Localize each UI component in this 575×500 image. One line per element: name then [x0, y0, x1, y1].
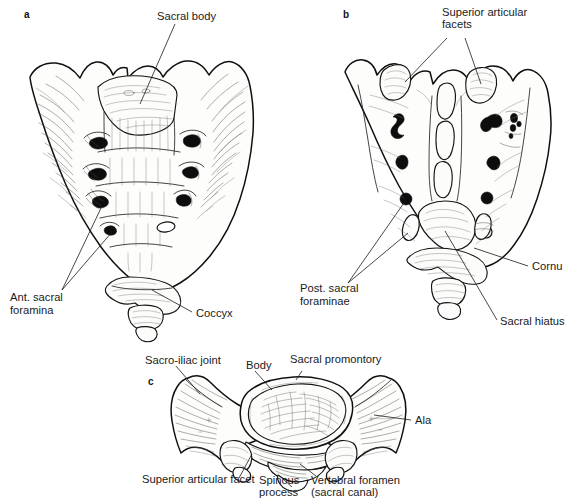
- panel-b-post-foramen-right-3: [481, 192, 493, 204]
- label-sacral-promontory: Sacral promontory: [290, 353, 382, 365]
- figure-root: a Sacral body Ant. sacral foramina Coccy…: [0, 0, 575, 500]
- panel-b-post-foramen-left-2: [396, 155, 408, 169]
- label-ant-sacral-foramina-line2: foramina: [10, 304, 54, 316]
- panel-a-foramen-right-3: [176, 195, 191, 207]
- panel-a-foramen-right-1: [183, 135, 200, 147]
- panel-a-foramen-right-2: [182, 167, 198, 178]
- label-body: Body: [246, 359, 272, 371]
- panel-a-letter: a: [24, 9, 30, 20]
- label-sup-art-facets-line1: Superior articular: [442, 6, 527, 18]
- label-superior-articular-facet: Superior articular facet: [142, 473, 255, 485]
- panel-c-letter: c: [148, 376, 154, 387]
- panel-b-post-foramen-left-3: [400, 193, 412, 205]
- label-spinous-process-line2: process: [259, 486, 299, 498]
- panel-b-coccyx-segment-3: [438, 303, 461, 320]
- label-post-sacral-foraminae-line1: Post. sacral: [300, 282, 358, 294]
- label-cornu: Cornu: [532, 260, 562, 272]
- label-spinous-process-line1: Spinous: [259, 474, 300, 486]
- label-post-sacral-foraminae-line2: foraminae: [300, 295, 350, 307]
- label-sacral-body: Sacral body: [157, 10, 216, 22]
- panel-b-letter: b: [343, 9, 349, 20]
- label-coccyx: Coccyx: [196, 307, 233, 319]
- label-sup-art-facets-line2: facets: [442, 18, 472, 30]
- label-ala: Ala: [415, 414, 432, 426]
- label-vertebral-foramen-line2: (sacral canal): [311, 486, 378, 498]
- label-vertebral-foramen-line1: Vertebral foramen: [311, 474, 400, 486]
- label-ant-sacral-foramina-line1: Ant. sacral: [10, 291, 63, 303]
- sacrum-figure-svg: a Sacral body Ant. sacral foramina Coccy…: [0, 0, 575, 500]
- panel-b-median-crest-3: [434, 162, 452, 198]
- label-sacral-hiatus: Sacral hiatus: [500, 315, 565, 327]
- panel-b-median-crest-2: [436, 121, 454, 159]
- label-sacro-iliac-joint: Sacro-iliac joint: [145, 354, 222, 366]
